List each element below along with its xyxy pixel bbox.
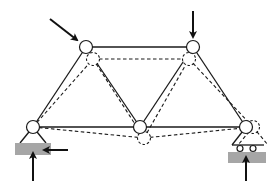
node-C [187, 41, 200, 54]
nodes [27, 41, 253, 134]
deformed-member-DC [144, 59, 189, 138]
load-arrow-diagonal-B [50, 19, 77, 40]
roller-1 [237, 146, 243, 152]
node-D [134, 121, 147, 134]
reactions [33, 150, 246, 181]
truss-svg [0, 0, 278, 193]
truss-diagram [0, 0, 278, 193]
original-shape [33, 47, 246, 127]
node-E [240, 121, 253, 134]
roller-2 [250, 146, 256, 152]
deformed-member-AB [33, 59, 93, 127]
member-AB [33, 47, 86, 127]
applied-loads [50, 11, 193, 40]
deformed-node-B [87, 53, 100, 66]
member-CE [193, 47, 246, 127]
deformed-nodes [87, 53, 260, 145]
node-B [80, 41, 93, 54]
deformed-member-DE [144, 127, 253, 138]
node-A [27, 121, 40, 134]
deformed-node-C [183, 53, 196, 66]
deformed-member-AD [33, 127, 144, 138]
deformed-member-CE [189, 59, 253, 127]
